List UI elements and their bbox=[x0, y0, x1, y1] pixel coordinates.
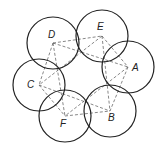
edge-f-b bbox=[65, 111, 110, 116]
node-circles bbox=[13, 10, 154, 142]
edge-d-e bbox=[53, 36, 102, 43]
label-d: D bbox=[48, 29, 55, 40]
node-labels: DEABCF bbox=[27, 21, 139, 129]
label-f: F bbox=[60, 118, 67, 129]
circle-graph-diagram: DEABCF bbox=[0, 0, 167, 150]
label-a: A bbox=[131, 62, 139, 73]
dashed-edges bbox=[39, 36, 128, 116]
label-b: B bbox=[108, 112, 115, 123]
label-e: E bbox=[97, 21, 104, 32]
edge-d-a bbox=[53, 43, 128, 67]
edge-c-f bbox=[39, 85, 65, 116]
edge-d-c bbox=[39, 43, 53, 85]
edge-e-a bbox=[102, 36, 128, 67]
label-c: C bbox=[27, 79, 35, 90]
